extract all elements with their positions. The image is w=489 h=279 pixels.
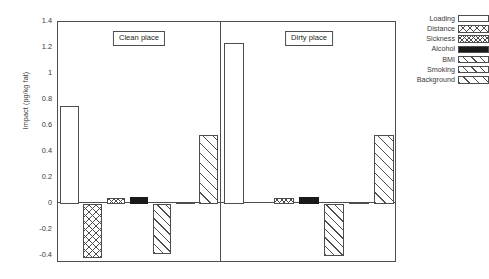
legend-label: BMI [442, 56, 455, 64]
y-tick-label: 0.6 [28, 121, 52, 129]
legend-swatch-bmi [458, 56, 489, 63]
legend-item-smoking: Smoking [404, 65, 489, 75]
panel-dirty-place: Dirty place [221, 22, 397, 261]
chart-legend: LoadingDistanceSicknessAlcoholBMISmoking… [404, 14, 489, 85]
legend-item-loading: Loading [404, 14, 489, 24]
legend-swatch-loading [458, 15, 489, 22]
bar-dirty-place-background [374, 135, 394, 204]
bar-clean-place-smoking [176, 202, 195, 205]
bar-clean-place-alcohol [130, 197, 149, 205]
legend-label: Alcohol [431, 45, 455, 53]
bar-clean-place-loading [60, 106, 79, 204]
y-tick-label: 1.2 [28, 43, 52, 51]
y-tick-label: 0.4 [28, 147, 52, 155]
legend-item-sickness: Sickness [404, 34, 489, 44]
y-tick-label: 1.4 [28, 17, 52, 25]
legend-label: Distance [427, 25, 455, 33]
plot-area: Clean place Dirty place [57, 21, 396, 262]
legend-label: Background [417, 76, 455, 84]
bar-dirty-place-alcohol [299, 197, 319, 205]
bar-dirty-place-bmi [324, 204, 344, 256]
bar-clean-place-background [199, 135, 218, 204]
legend-label: Sickness [426, 35, 455, 43]
legend-item-distance: Distance [404, 24, 489, 34]
legend-swatch-background [458, 76, 489, 83]
bar-clean-place-bmi [153, 204, 172, 254]
legend-swatch-alcohol [458, 46, 489, 53]
legend-swatch-sickness [458, 35, 489, 42]
bars-dirty-place [221, 22, 397, 261]
bar-dirty-place-loading [224, 43, 244, 205]
bar-dirty-place-smoking [349, 202, 369, 205]
y-tick-label: 0 [28, 199, 52, 207]
y-tick-label: -0.2 [28, 225, 52, 233]
y-tick-label: 0.8 [28, 95, 52, 103]
y-tick-label: 0.2 [28, 173, 52, 181]
legend-item-alcohol: Alcohol [404, 45, 489, 55]
panel-clean-place: Clean place [58, 22, 220, 261]
bar-dirty-place-sickness [274, 198, 294, 205]
legend-item-bmi: BMI [404, 55, 489, 65]
y-tick-label: 1 [28, 69, 52, 77]
legend-swatch-distance [458, 25, 489, 32]
bar-clean-place-distance [83, 204, 102, 257]
y-tick-label: -0.4 [28, 251, 52, 259]
bar-clean-place-sickness [107, 198, 126, 205]
chart-figure: Impact (pg/kg fat) 1.41.210.80.60.40.20-… [0, 0, 489, 279]
legend-item-background: Background [404, 75, 489, 85]
legend-label: Loading [429, 15, 455, 23]
legend-swatch-smoking [458, 66, 489, 73]
legend-label: Smoking [427, 66, 455, 74]
bars-clean-place [58, 22, 220, 261]
